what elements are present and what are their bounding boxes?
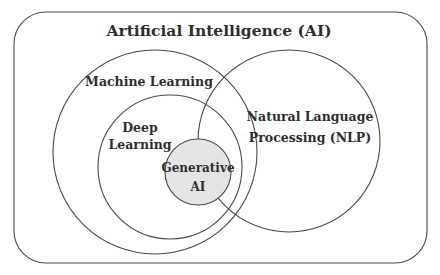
nlp-label-line1: Natural Language [247, 109, 374, 124]
ai-venn-diagram: Artificial Intelligence (AI) Machine Lea… [0, 0, 440, 275]
ai-title: Artificial Intelligence (AI) [106, 21, 332, 40]
nlp-label-line2: Processing (NLP) [249, 130, 371, 145]
ml-label: Machine Learning [85, 74, 213, 89]
genai-label-line2: AI [190, 180, 206, 194]
genai-label-line1: Generative [161, 161, 234, 175]
dl-label-line2: Learning [108, 137, 171, 152]
dl-label-line1: Deep [122, 120, 158, 135]
